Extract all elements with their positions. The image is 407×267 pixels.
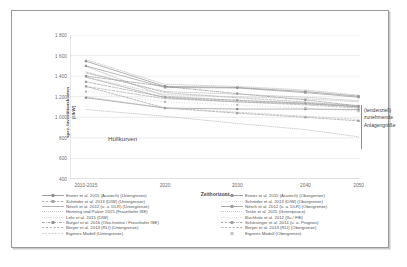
- series-marker: [164, 86, 166, 88]
- legend-item-label: Nitsch et al. 2012 (u. a. DLR) (Untergre…: [66, 204, 149, 209]
- legend-swatch-icon: [221, 209, 243, 214]
- series-line: [86, 86, 359, 120]
- series-marker: [357, 96, 359, 98]
- series-marker: [236, 108, 238, 110]
- series-marker: [236, 99, 238, 101]
- legend-item-label: Schröder et al. 2013 (DIW) (Obergrenze): [245, 199, 323, 204]
- legend-swatch-icon: [42, 225, 64, 230]
- y-axis-tick-label: 1 400: [55, 74, 67, 79]
- legend-swatch-icon: [42, 215, 64, 220]
- legend-item-label: Eigenes Modell (Obergrenze): [245, 231, 301, 236]
- legend-column-left: Eisner et al. 2015 (Acatech) (Untergrenz…: [16, 193, 207, 236]
- y-axis-tick-label: 600: [59, 156, 67, 161]
- annotation-anlagengroesse: (tendenziell) zunehmende Anlagengröße: [364, 107, 407, 129]
- legend-item-label: Buchholz et al. 2012 (IIu / FfE): [245, 215, 303, 220]
- x-axis-tick-label: 2020: [160, 183, 171, 188]
- annotation-bracket: [361, 105, 362, 149]
- y-axis-tick-label: 1 800: [55, 33, 67, 38]
- legend-swatch-icon: [221, 225, 243, 230]
- legend-swatch-icon: [221, 215, 243, 220]
- legend-swatch-icon: [221, 204, 243, 209]
- series-marker: [304, 102, 306, 104]
- y-axis-tick-label: 1 600: [55, 53, 67, 58]
- series-marker: [236, 104, 238, 106]
- legend-swatch-icon: [42, 209, 64, 214]
- chart-legend: Eisner et al. 2015 (Acatech) (Untergrenz…: [16, 193, 386, 236]
- series-marker: [85, 90, 87, 92]
- series-marker: [85, 81, 87, 83]
- legend-item-label: Teske et al. 2015 (Greenpeace): [245, 209, 305, 214]
- x-axis-tick-label: 2040: [300, 183, 311, 188]
- legend-item-label: Schröder et al. 2013 (DIW) (Untergrenze): [66, 199, 145, 204]
- legend-item-label: Eisner et al. 2015 (Acatech) (Untergrenz…: [66, 193, 147, 198]
- y-axis-tick-label: 1 200: [55, 94, 67, 99]
- series-lines: [85, 60, 360, 137]
- legend-swatch-icon: [221, 199, 243, 204]
- figure-frame: spez. Investitionskosten [€/kW] 1 8001 6…: [11, 10, 389, 248]
- legend-item-label: Breyer et al. 2013 (RLI) (Untergrenze): [66, 225, 138, 230]
- legend-swatch-icon: [42, 204, 64, 209]
- series-marker: [357, 120, 359, 122]
- legend-swatch-icon: [221, 193, 243, 198]
- series-marker: [236, 87, 238, 89]
- series-marker: [85, 65, 87, 67]
- legend-item-label: Burger et al. 2016 (Öko-Institut / Fraun…: [66, 220, 159, 225]
- legend-item-label: Schlesinger et al. 2014 (u. a. Prognos): [245, 220, 318, 225]
- legend-item-label: Henning und Palzer 2015 (Fraunhofer ISE): [66, 209, 148, 214]
- plot-svg: [70, 35, 360, 179]
- legend-item[interactable]: Eigenes Modell (Untergrenze): [42, 230, 207, 235]
- legend-item[interactable]: Eigenes Modell (Obergrenze): [221, 230, 386, 235]
- series-marker: [357, 110, 359, 112]
- legend-item-label: Breyer et al. 2013 (RLI) (Obergrenze): [245, 225, 316, 230]
- x-axis-tick-label: 2010-2015: [74, 183, 97, 188]
- annotation-huellkurven: Hüllkurven: [108, 135, 137, 142]
- legend-item-label: Eigenes Modell (Untergrenze): [66, 231, 123, 236]
- plot-area: 1 8001 6001 4001 2001 000800600400 2010-…: [70, 35, 360, 179]
- legend-item-label: Lehr et al. 2015 (DIW): [66, 215, 108, 220]
- chart-figure: spez. Investitionskosten [€/kW] 1 8001 6…: [12, 11, 390, 249]
- series-marker: [164, 96, 166, 98]
- legend-item-label: Eisner et al. 2015 (Acatech) (Obergrenze…: [245, 193, 325, 198]
- legend-swatch-icon: [221, 220, 243, 225]
- legend-item-label: Nitsch et al. 2012 (u. a. DLR) (Obergren…: [245, 204, 327, 209]
- x-axis-tick-label: 2030: [232, 183, 243, 188]
- series-line: [86, 110, 359, 137]
- legend-swatch-icon: [42, 193, 64, 198]
- y-axis-tick-label: 800: [59, 135, 67, 140]
- x-axis-tick-label: 2050: [353, 183, 364, 188]
- legend-swatch-icon: [221, 231, 243, 236]
- legend-swatch-icon: [42, 231, 64, 236]
- legend-swatch-icon: [42, 220, 64, 225]
- series-line: [86, 97, 359, 120]
- series-marker: [164, 101, 166, 103]
- legend-column-right: Eisner et al. 2015 (Acatech) (Obergrenze…: [207, 193, 386, 236]
- y-axis-tick-label: 400: [59, 177, 67, 182]
- series-marker: [304, 107, 306, 109]
- series-marker: [85, 60, 87, 62]
- y-axis-tick-label: 1 000: [55, 115, 67, 120]
- grid-lines: [70, 35, 360, 179]
- legend-swatch-icon: [42, 199, 64, 204]
- series-marker: [304, 92, 306, 94]
